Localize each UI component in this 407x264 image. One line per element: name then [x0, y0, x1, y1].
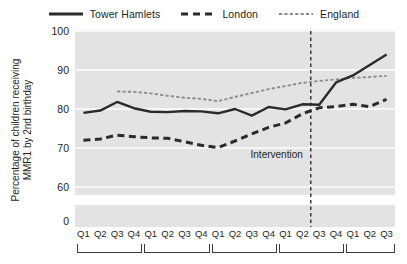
- x-axis-tick-9: Q2: [229, 228, 242, 239]
- series-line-england: [117, 76, 386, 101]
- x-axis-tick-4: Q1: [144, 228, 157, 239]
- x-axis-tick-13: Q2: [296, 228, 309, 239]
- x-axis-tick-0: Q1: [77, 228, 90, 239]
- x-axis-tick-12: Q1: [279, 228, 292, 239]
- x-axis-tick-15: Q4: [330, 228, 343, 239]
- x-axis-tick-14: Q3: [313, 228, 326, 239]
- x-axis-tick-11: Q4: [262, 228, 275, 239]
- legend-item-england: England: [278, 8, 359, 20]
- x-axis-tick-2: Q3: [111, 228, 124, 239]
- y-axis-tick-90: 90: [57, 64, 69, 76]
- x-axis-tick-5: Q2: [161, 228, 174, 239]
- plot-area: Intervention: [75, 31, 395, 227]
- legend-label-england: England: [320, 8, 359, 20]
- x-axis-tick-16: Q1: [347, 228, 360, 239]
- x-axis-tick-10: Q3: [245, 228, 258, 239]
- year-bracket-1: [144, 244, 209, 253]
- year-bracket-4: [346, 244, 395, 253]
- x-axis-tick-3: Q4: [128, 228, 141, 239]
- x-axis-tick-17: Q2: [363, 228, 376, 239]
- x-axis-tick-8: Q1: [212, 228, 225, 239]
- x-axis-tick-18: Q3: [380, 228, 393, 239]
- y-axis-title-line1: Percentage of children receiving: [10, 45, 22, 215]
- y-axis-tick-100: 100: [51, 25, 69, 37]
- dashed-line-key: [180, 9, 216, 19]
- y-axis: Percentage of children receiving MMR1 by…: [0, 0, 75, 233]
- year-bracket-0: [77, 244, 142, 253]
- legend-label-london: London: [222, 8, 258, 20]
- x-axis-tick-6: Q3: [178, 228, 191, 239]
- x-axis-tick-7: Q4: [195, 228, 208, 239]
- year-group-brackets: [75, 244, 395, 256]
- legend-item-london: London: [180, 8, 258, 20]
- series-layer: [75, 31, 395, 227]
- y-axis-title: Percentage of children receiving MMR1 by…: [10, 45, 34, 215]
- y-axis-tick-80: 80: [57, 103, 69, 115]
- y-axis-tick-70: 70: [57, 142, 69, 154]
- intervention-annotation-label: Intervention: [251, 148, 303, 159]
- x-axis: Q1Q2Q3Q4Q1Q2Q3Q4Q1Q2Q3Q4Q1Q2Q3Q4Q1Q2Q3: [75, 228, 395, 242]
- x-axis-tick-1: Q2: [94, 228, 107, 239]
- chart-root: Tower Hamlets London England Percentage …: [0, 0, 407, 264]
- legend-label-tower-hamlets: Tower Hamlets: [90, 8, 161, 20]
- year-bracket-3: [279, 244, 344, 253]
- y-axis-tick-0: 0: [63, 215, 69, 227]
- dotted-line-key: [278, 9, 314, 19]
- y-axis-tick-60: 60: [57, 181, 69, 193]
- y-axis-title-line2: MMR1 by 2nd birthday: [22, 45, 34, 215]
- year-bracket-2: [212, 244, 277, 253]
